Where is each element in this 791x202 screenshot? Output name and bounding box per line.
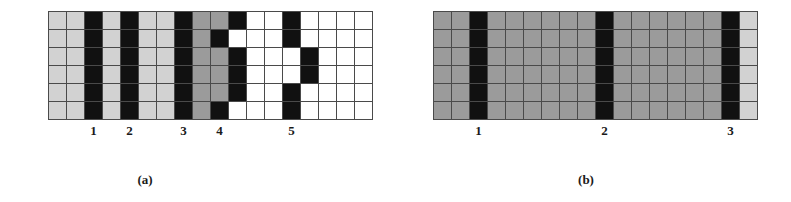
marker-label-a-1: 1: [90, 124, 97, 137]
grid-cell: [434, 48, 451, 65]
grid-cell: [488, 84, 505, 101]
grid-cell: [560, 30, 577, 47]
grid-cell: [193, 48, 210, 65]
panel-b: 123: [433, 11, 758, 120]
grid-cell: [139, 30, 156, 47]
grid-cell: [121, 30, 138, 47]
grid-cell: [175, 30, 192, 47]
grid-cell: [67, 30, 84, 47]
grid-cell: [283, 102, 300, 119]
marker-label-b-1: 1: [475, 124, 482, 137]
grid-cell: [722, 84, 739, 101]
grid-cell: [139, 84, 156, 101]
grid-cell: [175, 84, 192, 101]
grid-cell: [301, 12, 318, 29]
grid-cell: [452, 48, 469, 65]
grid-cell: [434, 12, 451, 29]
grid-cell: [85, 84, 102, 101]
marker-label-a-3: 3: [180, 124, 187, 137]
grid-cell: [337, 48, 354, 65]
grid-cell: [67, 84, 84, 101]
grid-cell: [193, 102, 210, 119]
grid-cell: [560, 48, 577, 65]
grid-cell: [355, 30, 372, 47]
grid-cell: [470, 12, 487, 29]
grid-cell: [193, 66, 210, 83]
grid-cell: [337, 66, 354, 83]
grid-cell: [722, 102, 739, 119]
grid-cell: [157, 12, 174, 29]
grid-cell: [470, 102, 487, 119]
grid-cell: [337, 84, 354, 101]
grid-cell: [434, 66, 451, 83]
grid-cell: [337, 30, 354, 47]
grid-cell: [542, 12, 559, 29]
grid-cell: [740, 66, 757, 83]
grid-cell: [211, 102, 228, 119]
grid-cell: [452, 66, 469, 83]
grid-cell: [283, 12, 300, 29]
grid-cell: [596, 12, 613, 29]
marker-label-a-4: 4: [216, 124, 223, 137]
grid-cell: [524, 12, 541, 29]
grid-cell: [49, 12, 66, 29]
marker-labels-a: 12345: [48, 124, 373, 140]
grid-cell: [506, 30, 523, 47]
grid-cell: [319, 66, 336, 83]
marker-label-a-5: 5: [288, 124, 295, 137]
grid-cell: [596, 102, 613, 119]
grid-cell: [506, 66, 523, 83]
grid-cell: [85, 48, 102, 65]
grid-cell: [668, 84, 685, 101]
grid-cell: [283, 48, 300, 65]
panel-a: 12345: [48, 11, 373, 120]
grid-cell: [686, 102, 703, 119]
grid-cell: [542, 84, 559, 101]
grid-cell: [524, 30, 541, 47]
grid-cell: [337, 12, 354, 29]
grid-cell: [632, 12, 649, 29]
grid-cell: [247, 48, 264, 65]
grid-cell: [452, 84, 469, 101]
grid-cell: [175, 102, 192, 119]
grid-cell: [650, 30, 667, 47]
grid-cell: [668, 30, 685, 47]
grid-cell: [211, 48, 228, 65]
grid-cell: [265, 102, 282, 119]
grid-cell: [211, 66, 228, 83]
grid-cell: [722, 30, 739, 47]
grid-cell: [614, 102, 631, 119]
grid-b: [433, 11, 758, 120]
grid-cell: [596, 66, 613, 83]
grid-a: [48, 11, 373, 120]
grid-cell: [470, 30, 487, 47]
grid-cell: [49, 84, 66, 101]
grid-cell: [578, 12, 595, 29]
marker-label-a-2: 2: [126, 124, 133, 137]
grid-cell: [704, 30, 721, 47]
grid-cell: [560, 12, 577, 29]
grid-cell: [488, 102, 505, 119]
grid-cell: [488, 12, 505, 29]
grid-cell: [596, 48, 613, 65]
grid-cell: [650, 84, 667, 101]
grid-cell: [49, 66, 66, 83]
grid-cell: [301, 84, 318, 101]
grid-cell: [67, 12, 84, 29]
grid-cell: [301, 102, 318, 119]
grid-cell: [542, 102, 559, 119]
grid-cell: [650, 66, 667, 83]
panel-a-caption: (a): [137, 172, 152, 188]
grid-cell: [355, 84, 372, 101]
grid-cell: [506, 48, 523, 65]
grid-cell: [704, 102, 721, 119]
grid-cell: [722, 66, 739, 83]
grid-cell: [121, 102, 138, 119]
marker-label-b-3: 3: [727, 124, 734, 137]
grid-cell: [121, 12, 138, 29]
grid-cell: [686, 30, 703, 47]
grid-cell: [668, 48, 685, 65]
grid-cell: [542, 30, 559, 47]
grid-cell: [103, 102, 120, 119]
grid-cell: [265, 84, 282, 101]
